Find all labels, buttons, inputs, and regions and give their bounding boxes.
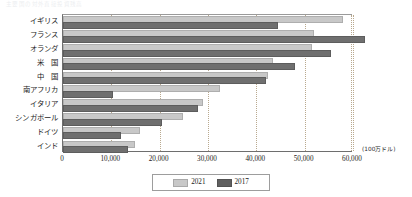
bar-row — [63, 112, 352, 126]
bar-row — [63, 43, 352, 57]
legend-item-2017[interactable]: 2017 — [217, 178, 249, 187]
x-axis-labels: 010,00020,00030,00040,00050,00060,000 — [0, 154, 412, 166]
bar-2017 — [63, 146, 128, 153]
x-axis-tick-label: 50,000 — [294, 154, 314, 164]
y-axis-tick-label: 南アフリカ — [0, 85, 58, 94]
x-axis-tick-label: 20,000 — [149, 154, 169, 164]
bar-row — [63, 56, 352, 70]
bar-row — [63, 125, 352, 139]
bar-row — [63, 84, 352, 98]
x-axis-tick-label: 0 — [60, 154, 64, 164]
y-axis-tick-label: イタリア — [0, 99, 58, 108]
y-axis-labels: イギリスフランスオランダ米 国中 国南アフリカイタリアシンガポールドイツインド — [0, 14, 58, 152]
legend-label: 2017 — [235, 178, 249, 187]
plot-area — [62, 14, 352, 152]
bar-row — [63, 139, 352, 153]
bar-row — [63, 98, 352, 112]
legend-swatch-icon — [217, 179, 232, 187]
legend-label: 2021 — [191, 178, 205, 187]
x-axis-tick-label: 30,000 — [197, 154, 217, 164]
x-axis-unit-label: (100万ドル) — [362, 145, 396, 153]
y-axis-tick-label: 米 国 — [0, 58, 58, 67]
legend-item-2021[interactable]: 2021 — [173, 178, 205, 187]
x-axis-tick-label: 60,000 — [342, 154, 362, 164]
x-axis-tick-label: 10,000 — [100, 154, 120, 164]
y-axis-tick-label: シンガポール — [0, 113, 58, 122]
bar-row — [63, 70, 352, 84]
bar-row — [63, 15, 352, 29]
bar-rows — [63, 15, 352, 151]
y-axis-tick-label: インド — [0, 141, 58, 150]
legend-swatch-icon — [173, 179, 188, 187]
y-axis-tick-label: 中 国 — [0, 72, 58, 81]
y-axis-tick-label: イギリス — [0, 16, 58, 25]
chart-container: 主要国の対外直接投資残高 イギリスフランスオランダ米 国中 国南アフリカイタリア… — [0, 0, 412, 197]
chart-caption: 主要国の対外直接投資残高 — [6, 0, 83, 8]
x-axis-tick-label: 40,000 — [245, 154, 265, 164]
y-axis-tick-label: オランダ — [0, 44, 58, 53]
chart-legend: 20212017 — [152, 174, 270, 191]
y-axis-tick-label: フランス — [0, 30, 58, 39]
y-axis-tick-label: ドイツ — [0, 127, 58, 136]
bar-row — [63, 29, 352, 43]
